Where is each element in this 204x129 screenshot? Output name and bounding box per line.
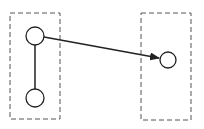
left-bottom-node	[26, 89, 44, 107]
left-top-node	[26, 27, 44, 45]
right-node	[160, 52, 176, 68]
diagram-canvas	[0, 0, 204, 129]
directed-edge-arrow	[44, 37, 159, 58]
